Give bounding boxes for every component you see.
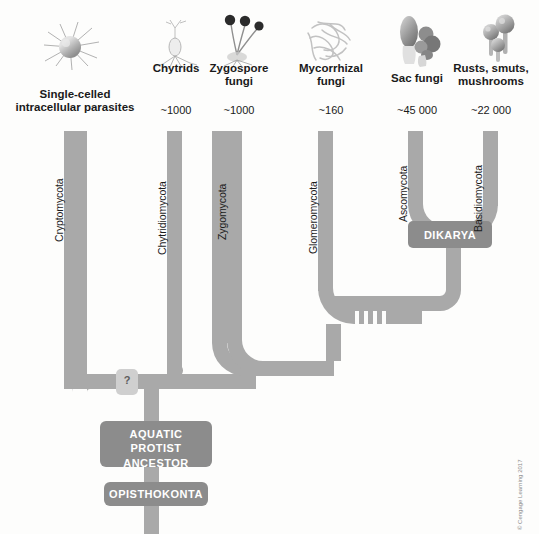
clade-label-chytridiomycota: Chytridiomycota [156,181,168,255]
taxon-header-cryptomycota: Single-celled intracellular parasites [0,88,150,114]
taxon-common-name-line2: intracellular parasites [0,101,150,114]
aquatic-protist-ancestor-node-box[interactable] [100,421,212,467]
taxon-header-glomeromycota: Mycorrhizal fungi [283,62,379,88]
branch-cryptomycota-elbow [72,131,151,392]
species-count-zygomycota: ~1000 [197,104,281,116]
tree-branches [64,131,498,534]
mycorrhizal-hyphae-icon [308,22,350,60]
branch-glomero-dikarya-trunk [326,324,341,361]
branch-chytrid-elbow [167,131,183,389]
branch-uncertain-hatch-glomeromycota [354,309,390,324]
sac-fungi-morel-icon [400,16,441,67]
taxon-common-name-line2: fungi [283,75,379,88]
clade-label-cryptomycota: Cryptomycota [53,178,65,242]
branch-glomeromycota-elbow [318,131,354,324]
spiked-sphere-cell-icon [44,22,99,70]
taxon-header-basidiomycota: Rusts, smuts, mushrooms [443,62,539,88]
taxon-header-zygomycota: Zygospore fungi [197,62,281,88]
branch-opisthokonta-to-aquatic [144,466,159,482]
branch-basal-horizontal-right [138,374,256,389]
clade-label-glomeromycota: Glomeromycota [307,181,319,254]
taxon-common-name-line2: mushrooms [443,75,539,88]
branch-dikarya-to-trunk-elbow [333,262,461,311]
branch-root-stem [144,505,159,534]
clade-label-ascomycota: Ascomycota [397,166,409,222]
branch-lower-corner [241,361,256,383]
taxon-common-name-line1: Rusts, smuts, [443,62,539,75]
branch-cryptomycota-join [64,374,79,389]
taxon-common-name-line1: Single-celled [0,88,150,101]
species-count-basidiomycota: ~22 000 [443,104,539,116]
uncertain-node-box[interactable] [116,369,138,395]
zygospore-sporangiophore-icon [224,15,264,68]
species-count-glomeromycota: ~160 [283,104,379,116]
branch-glomeromycota-horizontal [387,309,422,324]
clade-label-zygomycota: Zygomycota [216,184,228,240]
taxon-common-name-line2: fungi [197,75,281,88]
taxon-common-name-line1: Mycorrhizal [283,62,379,75]
copyright-credit: © Cengage Learning 2017 [517,460,523,530]
mushroom-cluster-icon [483,15,515,63]
fungal-phylogeny-figure: Single-celled intracellular parasites Ch… [0,0,539,534]
branch-cryptomycota-vertical [64,131,79,383]
taxon-common-name-line1: Zygospore [197,62,281,75]
clade-label-basidiomycota: Basidiomycota [472,165,484,232]
branch-zygomycota-elbow-curve [227,131,263,376]
opisthokonta-node-box[interactable] [104,482,208,506]
